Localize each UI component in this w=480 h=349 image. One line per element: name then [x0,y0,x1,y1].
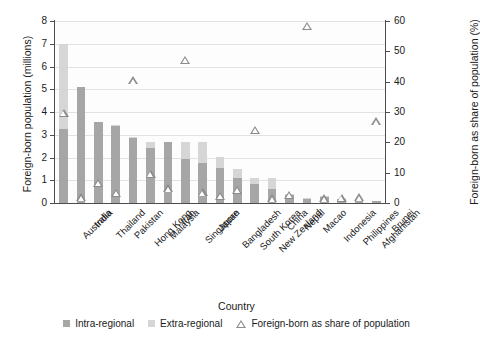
y-axis-right-tick-label: 30 [394,107,414,117]
y-axis-right-tick [386,203,390,204]
bar-column[interactable] [77,87,86,203]
bar-segment-extra-regional [268,178,277,189]
bar-segment-intra-regional [164,142,173,203]
x-axis-title: Country [0,300,473,312]
bar-column[interactable] [372,201,381,203]
y-axis-right-tick-label: 20 [394,137,414,147]
marker-inner [373,120,379,125]
share-marker-triangle-icon[interactable] [128,76,138,84]
bar-column[interactable] [59,44,68,203]
bar-column[interactable] [129,137,138,203]
share-marker-triangle-icon[interactable] [59,109,69,117]
y-axis-right-tick-label: 60 [394,16,414,26]
share-marker-triangle-icon[interactable] [215,192,225,200]
share-marker-triangle-icon[interactable] [354,193,364,201]
marker-inner [95,181,101,186]
marker-inner [286,193,292,198]
share-marker-triangle-icon[interactable] [180,56,190,64]
bar-segment-intra-regional [250,184,259,203]
marker-inner [78,196,84,201]
y-axis-left-tick [50,67,54,68]
marker-inner [147,172,153,177]
bar-series-layer [55,21,385,203]
share-marker-triangle-icon[interactable] [250,126,260,134]
share-marker-triangle-icon[interactable] [284,191,294,199]
y-axis-right-tick [386,82,390,83]
y-axis-right-tick [386,173,390,174]
share-marker-triangle-icon[interactable] [163,184,173,192]
share-marker-triangle-icon[interactable] [232,186,242,194]
bar-segment-extra-regional [181,142,190,160]
share-marker-triangle-icon[interactable] [267,194,277,202]
legend-swatch-extra-regional [148,320,155,327]
y-axis-right-tick-label: 10 [394,168,414,178]
share-marker-triangle-icon[interactable] [146,170,156,178]
y-axis-right-tick-label: 40 [394,77,414,87]
bar-segment-intra-regional [303,199,312,203]
y-axis-left-tick [50,180,54,181]
marker-inner [165,187,171,192]
marker-inner [304,24,310,29]
y-axis-left-tick-label: 7 [30,39,47,49]
marker-inner [113,191,119,196]
share-marker-triangle-icon[interactable] [302,22,312,30]
marker-inner [269,197,275,202]
share-marker-triangle-icon[interactable] [76,193,86,201]
bar-segment-intra-regional [77,87,86,203]
y-axis-left-tick-label: 3 [30,130,47,140]
y-axis-right-tick [386,51,390,52]
y-axis-left-tick [50,89,54,90]
marker-inner [338,196,344,201]
bar-segment-intra-regional [198,163,207,203]
x-axis-line [54,203,386,204]
bar-segment-intra-regional [59,129,68,203]
bar-column[interactable] [303,198,312,203]
marker-inner [60,111,66,116]
bar-column[interactable] [250,178,259,203]
share-marker-triangle-icon[interactable] [337,194,347,202]
share-marker-triangle-icon[interactable] [111,189,121,197]
bar-segment-extra-regional [216,157,225,168]
y-axis-left-tick [50,112,54,113]
y-axis-left-tick [50,44,54,45]
triangle-up-icon [236,320,246,328]
x-axis-category-label: Japan [215,207,241,233]
bar-column[interactable] [164,142,173,203]
y-axis-left-tick [50,21,54,22]
chart-legend: Intra-regional Extra-regional Foreign-bo… [0,318,473,329]
legend-swatch-intra-regional [63,320,70,327]
bar-segment-intra-regional [181,159,190,203]
y-axis-right-tick [386,112,390,113]
marker-inner [130,79,136,84]
legend-item-intra-regional: Intra-regional [63,318,134,329]
y-axis-left-tick [50,158,54,159]
bar-segment-intra-regional [94,122,103,203]
marker-inner [199,191,205,196]
share-marker-triangle-icon[interactable] [93,179,103,187]
y-axis-left-tick [50,203,54,204]
y-axis-left-tick-label: 2 [30,153,47,163]
share-marker-triangle-icon[interactable] [371,117,381,125]
bar-column[interactable] [94,122,103,203]
legend-label-extra-regional: Extra-regional [160,318,222,329]
marker-inner [252,128,258,133]
share-marker-triangle-icon[interactable] [198,188,208,196]
bar-segment-extra-regional [198,142,207,163]
bar-column[interactable] [181,142,190,203]
y-axis-right-tick-label: 0 [394,198,414,208]
bar-segment-intra-regional [129,138,138,203]
y-axis-left-tick-label: 0 [30,198,47,208]
share-marker-triangle-icon[interactable] [319,194,329,202]
marker-inner [321,197,327,202]
y-axis-right-tick-label: 50 [394,46,414,56]
legend-item-share: Foreign-born as share of population [236,318,409,329]
marker-inner [234,188,240,193]
x-axis-category-label: Macao [320,207,348,235]
bar-segment-extra-regional [250,178,259,185]
bar-segment-intra-regional [372,201,381,203]
legend-item-extra-regional: Extra-regional [148,318,222,329]
marker-inner [356,196,362,201]
legend-label-share: Foreign-born as share of population [251,318,409,329]
y-axis-left-tick-label: 8 [30,16,47,26]
